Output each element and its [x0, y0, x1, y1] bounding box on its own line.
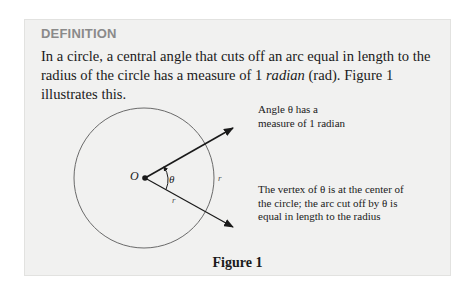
annotation-top-line: Angle θ has a — [258, 103, 345, 117]
radius-label: r — [172, 194, 176, 208]
upper-ray-arrow — [145, 128, 233, 178]
annotation-bottom-line: The vertex of θ is at the center of — [258, 183, 404, 197]
annotation-top-line: measure of 1 radian — [258, 117, 345, 131]
center-dot — [142, 175, 148, 181]
arc-label: r — [218, 172, 222, 186]
annotation-bottom-line: equal in length to the radius — [258, 210, 404, 224]
center-label: O — [130, 170, 139, 184]
annotation-bottom: The vertex of θ is at the center of the … — [258, 183, 404, 224]
annotation-bottom-line: the circle; the arc cut off by θ is — [258, 197, 404, 211]
radian-diagram — [0, 0, 476, 295]
theta-label: θ — [169, 173, 174, 187]
angle-arc — [164, 167, 168, 190]
annotation-top: Angle θ has a measure of 1 radian — [258, 103, 345, 130]
